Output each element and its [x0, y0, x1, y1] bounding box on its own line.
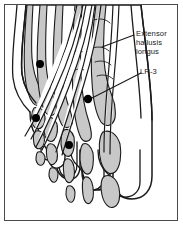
point-middle: [32, 114, 40, 122]
figure-illustration-foot-anatomy: Extensor hallusis longus LR-3: [0, 0, 183, 226]
point-upper: [36, 60, 44, 68]
label-lr3: LR-3: [140, 67, 157, 76]
label-line-2: hallusis: [136, 38, 167, 47]
label-extensor-hallucis-longus: Extensor hallusis longus: [136, 29, 167, 57]
point-lr3: [84, 95, 92, 103]
label-line-3: longus: [136, 47, 167, 56]
point-lower: [65, 141, 73, 149]
label-line-1: Extensor: [136, 29, 167, 38]
label-line-1: LR-3: [140, 67, 157, 76]
